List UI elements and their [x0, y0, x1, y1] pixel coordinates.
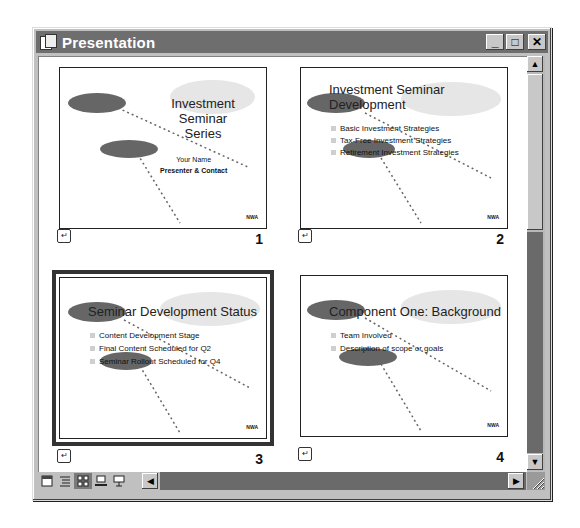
slide-thumbnail-1[interactable]: Investment Seminar Series Your Name Pres… [59, 67, 267, 229]
slide-cell-3[interactable]: Seminar Development Status Content Devel… [43, 263, 275, 463]
bullet-item: Content Development Stage [90, 330, 200, 341]
close-icon: ✕ [532, 35, 542, 49]
notes-page-icon [95, 475, 107, 487]
slide-sorter-pane[interactable]: Investment Seminar Series Your Name Pres… [38, 56, 527, 472]
bullet-item: Tax-Free Investment Strategies [331, 135, 451, 146]
view-toolbar: ◀ ▶ [38, 472, 526, 490]
slide-title: Investment Seminar Development [329, 82, 445, 112]
dotted-lines [60, 68, 266, 228]
scroll-right-button[interactable]: ▶ [508, 473, 524, 489]
slide-thumbnail-4[interactable]: Component One: Background Team Involved … [300, 275, 508, 437]
arrow-up-icon: ▲ [531, 59, 540, 69]
logo: NWA [246, 424, 258, 430]
slide-number: 3 [255, 451, 263, 467]
arrow-left-icon: ◀ [147, 476, 154, 486]
logo: NWA [487, 422, 499, 428]
horizontal-scrollbar[interactable]: ▶ [160, 472, 526, 490]
outline-view-button[interactable] [56, 473, 74, 489]
title-bar[interactable]: Presentation _ □ ✕ [36, 31, 548, 53]
slide-sorter-icon [77, 475, 89, 487]
slide-title: Seminar Development Status [88, 304, 257, 319]
presentation-window: Presentation _ □ ✕ Investment Seminar Se… [32, 27, 552, 501]
slide-number: 1 [255, 231, 263, 247]
slide-number: 2 [496, 231, 504, 247]
resize-grip[interactable] [527, 472, 545, 490]
resize-grip-icon [527, 472, 545, 490]
minimize-icon: _ [492, 35, 499, 49]
slide-thumbnail-2[interactable]: Investment Seminar Development Basic Inv… [300, 67, 508, 229]
arrow-right-icon: ▶ [513, 476, 520, 486]
slide-show-view-button[interactable] [110, 473, 128, 489]
bullet-item: Basic Investment Strategies [331, 123, 439, 134]
scroll-left-button[interactable]: ◀ [142, 473, 158, 489]
scroll-down-button[interactable]: ▼ [527, 454, 543, 470]
powerpoint-doc-icon[interactable] [40, 34, 56, 50]
scroll-up-button[interactable]: ▲ [527, 56, 543, 72]
slide-transition-icon[interactable]: ↵ [57, 229, 71, 243]
outline-view-icon [59, 475, 71, 487]
bullet-item: Retirement Investment Strategies [331, 147, 459, 158]
normal-view-button[interactable] [38, 473, 56, 489]
logo: NWA [246, 214, 258, 220]
slide-cell-4[interactable]: Component One: Background Team Involved … [284, 263, 516, 463]
bullet-item: Description of scope or goals [331, 343, 443, 354]
slide-transition-icon[interactable]: ↵ [57, 449, 71, 463]
notes-page-view-button[interactable] [92, 473, 110, 489]
slide-show-icon [113, 475, 125, 487]
logo: NWA [487, 214, 499, 220]
maximize-icon: □ [511, 35, 518, 49]
maximize-button[interactable]: □ [506, 34, 524, 50]
slide-thumbnail-3[interactable]: Seminar Development Status Content Devel… [59, 277, 267, 439]
slide-transition-icon[interactable]: ↵ [298, 447, 312, 461]
dotted-lines [301, 276, 507, 436]
vertical-scroll-thumb[interactable] [527, 74, 543, 230]
vertical-scroll-track[interactable] [527, 232, 543, 453]
slide-cell-2[interactable]: Investment Seminar Development Basic Inv… [284, 57, 516, 257]
window-title: Presentation [62, 34, 155, 51]
slide-number: 4 [496, 449, 504, 465]
slide-subtitle: Your Name Presenter & Contact [160, 154, 227, 176]
close-button[interactable]: ✕ [528, 34, 546, 50]
bullet-item: Final Content Scheduled for Q2 [90, 343, 211, 354]
minimize-button[interactable]: _ [486, 34, 504, 50]
bullet-item: Team Involved [331, 330, 392, 341]
slide-cell-1[interactable]: Investment Seminar Series Your Name Pres… [43, 57, 275, 257]
arrow-down-icon: ▼ [531, 457, 540, 467]
vertical-scrollbar[interactable]: ▲ ▼ [527, 56, 545, 471]
normal-view-icon [41, 475, 53, 487]
slide-sorter-view-button[interactable] [74, 473, 92, 489]
slide-transition-icon[interactable]: ↵ [298, 229, 312, 243]
slide-title: Component One: Background [329, 304, 501, 319]
bullet-item: Seminar Rollout Scheduled for Q4 [90, 356, 220, 367]
slide-title: Investment Seminar Series [148, 96, 258, 141]
